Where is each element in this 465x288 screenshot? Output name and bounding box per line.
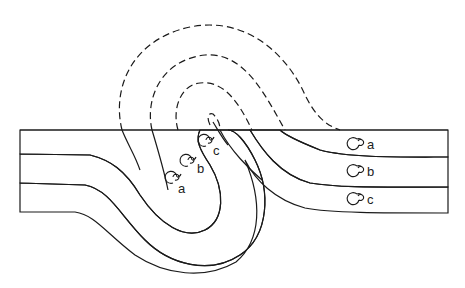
- fossil-label-a: a: [367, 137, 375, 152]
- middle-plain-stratum: [20, 130, 448, 266]
- fossil-label-a: a: [178, 181, 186, 196]
- fossil-right-c: c: [347, 192, 374, 207]
- fossil-right-a: a: [347, 137, 375, 152]
- ammonite-icon: [347, 138, 363, 150]
- fossil-label-b: b: [367, 164, 374, 179]
- fossil-label-b: b: [197, 161, 204, 176]
- ammonite-icon: [198, 134, 214, 146]
- fossil-right-b: b: [347, 164, 374, 179]
- fold-diagram: a b c a b c: [0, 0, 465, 288]
- fossil-left-a: a: [165, 171, 186, 196]
- upper-stippled-stratum: [20, 130, 448, 233]
- ammonite-icon: [347, 193, 363, 205]
- fossil-label-c: c: [367, 192, 374, 207]
- ammonite-icon: [180, 154, 196, 166]
- ammonite-icon: [347, 165, 363, 177]
- hinge-trace-lines: [122, 122, 262, 190]
- fossil-left-c: c: [198, 134, 220, 158]
- fossil-label-c: c: [213, 143, 220, 158]
- fossil-left-b: b: [180, 154, 204, 176]
- eroded-fold-dashed-lines: [119, 25, 340, 130]
